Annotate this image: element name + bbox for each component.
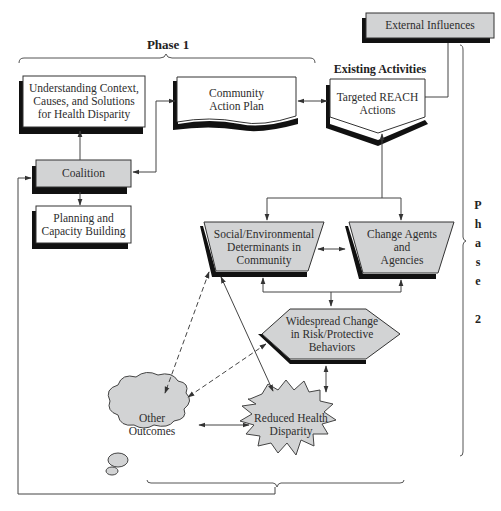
phase2-char: P xyxy=(472,196,484,215)
targeted-reach-label: Targeted REACH Actions xyxy=(330,91,425,117)
other-outcomes-label: Other Outcomes xyxy=(112,412,192,438)
cap-line-2: Action Plan xyxy=(177,100,296,113)
branch-to-social xyxy=(267,198,382,220)
change-line-1: Change Agents xyxy=(352,228,452,241)
bottom-brace xyxy=(147,480,404,487)
change-line-3: Agencies xyxy=(352,254,452,267)
widespread-line-3: Behaviors xyxy=(272,341,392,354)
external-influences-label: External Influences xyxy=(366,19,494,32)
determinants-join xyxy=(263,278,401,292)
understanding-line-3: for Health Disparity xyxy=(23,108,145,121)
cap-line-1: Community xyxy=(177,87,296,100)
phase2-brace xyxy=(460,45,466,456)
phase2-char: e xyxy=(472,272,484,291)
phase2-char: s xyxy=(472,253,484,272)
branch-to-change xyxy=(382,198,401,220)
reduced-line-2: Disparity xyxy=(245,425,337,438)
phase1-brace xyxy=(19,54,315,63)
social-line-1: Social/Environmental xyxy=(206,228,322,241)
phase2-char: h xyxy=(472,215,484,234)
understanding-line-1: Understanding Context, xyxy=(23,82,145,95)
planning-line-2: Capacity Building xyxy=(36,225,131,238)
widespread-other-dashed xyxy=(188,344,266,397)
phase2-label: P h a s e 2 xyxy=(472,196,484,329)
community-action-plan-label: Community Action Plan xyxy=(177,87,296,113)
social-line-2: Determinants in xyxy=(206,241,322,254)
widespread-change-label: Widespread Change in Risk/Protective Beh… xyxy=(272,315,392,354)
phase2-char: a xyxy=(472,234,484,253)
other-line-2: Outcomes xyxy=(112,425,192,438)
reduced-disparity-label: Reduced Health Disparity xyxy=(245,412,337,438)
social-line-3: Community xyxy=(206,254,322,267)
cloud-puff-1 xyxy=(108,453,128,467)
social-env-label: Social/Environmental Determinants in Com… xyxy=(206,228,322,267)
reach-line-1: Targeted REACH xyxy=(330,91,425,104)
understanding-line-2: Causes, and Solutions xyxy=(23,95,145,108)
existing-activities-label: Existing Activities xyxy=(320,63,440,76)
cloud-puff-2 xyxy=(106,467,118,475)
phase1-label: Phase 1 xyxy=(118,38,218,51)
widespread-line-1: Widespread Change xyxy=(272,315,392,328)
phase2-spacer xyxy=(472,291,484,310)
change-line-2: and xyxy=(352,241,452,254)
change-agents-label: Change Agents and Agencies xyxy=(352,228,452,267)
understanding-label: Understanding Context, Causes, and Solut… xyxy=(23,82,145,121)
planning-label: Planning and Capacity Building xyxy=(36,212,131,238)
other-line-1: Other xyxy=(112,412,192,425)
coalition-label: Coalition xyxy=(36,167,131,180)
planning-line-1: Planning and xyxy=(36,212,131,225)
reach-line-2: Actions xyxy=(330,104,425,117)
reduced-line-1: Reduced Health xyxy=(245,412,337,425)
phase2-char: 2 xyxy=(472,310,484,329)
widespread-line-2: in Risk/Protective xyxy=(272,328,392,341)
